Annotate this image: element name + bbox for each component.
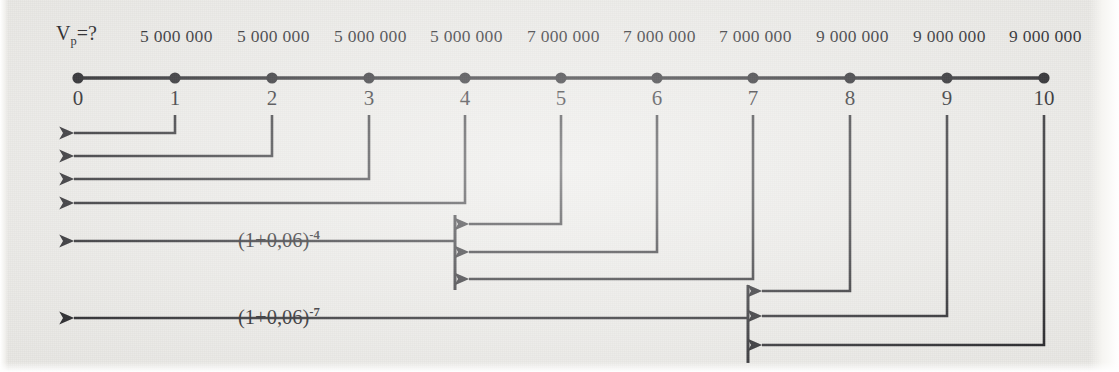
cash-flow-amount-6: 7 000 000 xyxy=(623,26,696,47)
discount-factor-label-4: (1+0,06)-4 xyxy=(238,228,320,252)
discount-path-period-7 xyxy=(469,115,753,279)
tick-label-10: 10 xyxy=(1034,86,1055,111)
cash-flow-amount-3: 5 000 000 xyxy=(334,26,407,47)
tick-label-9: 9 xyxy=(942,86,953,111)
discount-path-period-10 xyxy=(762,115,1044,345)
discount-factor-label-7: (1+0,06)-7 xyxy=(238,305,320,329)
cash-flow-amount-7: 7 000 000 xyxy=(719,26,792,47)
tick-label-4: 4 xyxy=(460,86,471,111)
discount-path-period-2 xyxy=(74,115,272,156)
cash-flow-amount-5: 7 000 000 xyxy=(527,26,600,47)
discount-path-period-1 xyxy=(74,115,175,133)
cash-flow-amount-9: 9 000 000 xyxy=(913,26,986,47)
discount-path-period-5 xyxy=(469,115,561,224)
cash-flow-amount-10: 9 000 000 xyxy=(1009,26,1082,47)
cash-flow-amount-2: 5 000 000 xyxy=(237,26,310,47)
discount-path-period-6 xyxy=(469,115,657,252)
cash-flow-amount-1: 5 000 000 xyxy=(140,26,213,47)
discount-path-period-4 xyxy=(74,115,465,203)
cash-flow-timeline-figure: Vp=? 5 000 000 5 000 000 5 000 000 5 000… xyxy=(0,0,1119,372)
tick-label-2: 2 xyxy=(267,86,278,111)
cash-flow-amount-4: 5 000 000 xyxy=(430,26,503,47)
discount-path-period-3 xyxy=(74,115,369,179)
tick-label-5: 5 xyxy=(556,86,567,111)
cash-flow-amount-8: 9 000 000 xyxy=(816,26,889,47)
discount-path-period-9 xyxy=(762,115,947,316)
tick-label-0: 0 xyxy=(73,86,84,111)
tick-label-8: 8 xyxy=(845,86,856,111)
present-value-label: Vp=? xyxy=(56,22,97,49)
tick-label-1: 1 xyxy=(170,86,181,111)
tick-label-3: 3 xyxy=(364,86,375,111)
timeline-diagram-canvas xyxy=(0,0,1119,372)
tick-label-6: 6 xyxy=(652,86,663,111)
tick-label-7: 7 xyxy=(748,86,759,111)
timeline-axis xyxy=(72,72,1049,83)
discount-path-period-8 xyxy=(762,115,850,291)
